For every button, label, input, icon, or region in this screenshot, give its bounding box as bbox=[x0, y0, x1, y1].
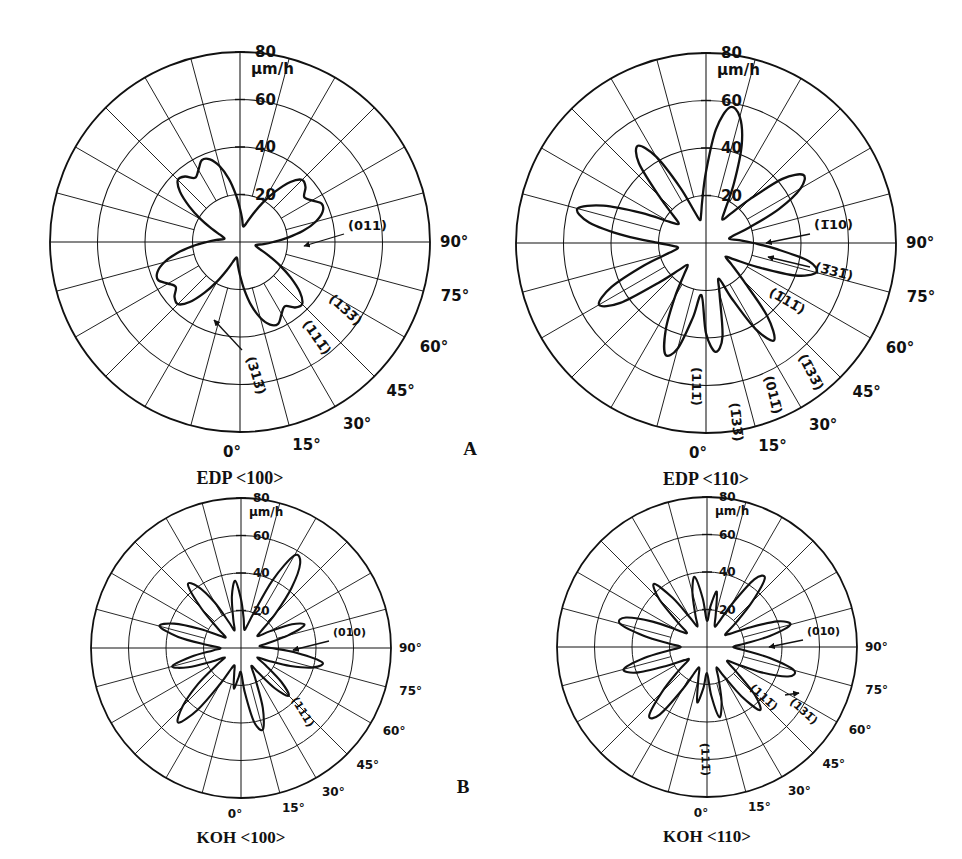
angle-label-45: 45° bbox=[356, 758, 379, 772]
angle-label-0: 0° bbox=[223, 443, 241, 461]
angle-label-90: 90° bbox=[440, 233, 468, 251]
grid-spoke-285 bbox=[522, 255, 660, 292]
plane-label-5: (111̅) bbox=[689, 367, 704, 406]
grid-spoke-255 bbox=[96, 609, 205, 638]
angle-label-45: 45° bbox=[822, 757, 845, 771]
polar-plot-edp-100: 20406080µm/h0°15°30°45°60°75°90°(011)(13… bbox=[50, 43, 469, 488]
plane-label-2: (131̅) bbox=[787, 696, 820, 728]
grid-spoke-15 bbox=[251, 684, 280, 793]
grid-spoke-165 bbox=[717, 502, 746, 611]
panel-caption-koh-100: KOH <100> bbox=[197, 828, 286, 847]
grid-spoke-285 bbox=[96, 658, 205, 687]
angle-label-30: 30° bbox=[343, 415, 371, 433]
plane-label-1: (3̅31̅) bbox=[813, 259, 855, 283]
grid-spoke-345 bbox=[668, 683, 697, 792]
angle-label-90: 90° bbox=[399, 641, 422, 655]
plane-label-6: (1̅33̅) bbox=[727, 402, 746, 442]
plane-label-1: (133̅) bbox=[326, 291, 365, 328]
unit-label: µm/h bbox=[251, 60, 294, 78]
plane-label-3: (1̅33̅) bbox=[795, 351, 827, 393]
angle-label-60: 60° bbox=[886, 339, 914, 357]
radial-tick-label-80: 80 bbox=[255, 43, 276, 61]
angle-label-60: 60° bbox=[383, 724, 406, 738]
grid-spoke-165 bbox=[251, 503, 280, 612]
plane-label-leader-0 bbox=[293, 641, 329, 650]
angle-label-15: 15° bbox=[282, 801, 305, 815]
polar-plot-edp-110: 20406080µm/h0°15°30°45°60°75°90°(1̅10)(3… bbox=[516, 44, 935, 489]
angle-label-90: 90° bbox=[906, 234, 934, 252]
unit-label: µm/h bbox=[249, 505, 283, 519]
angle-label-60: 60° bbox=[849, 723, 872, 737]
angle-label-45: 45° bbox=[386, 382, 414, 400]
figure-canvas: 20406080µm/h0°15°30°45°60°75°90°(011)(13… bbox=[0, 0, 962, 859]
angle-label-0: 0° bbox=[228, 807, 242, 821]
panel-caption-koh-110: KOH <110> bbox=[663, 827, 751, 846]
angle-label-75: 75° bbox=[399, 684, 422, 698]
radial-tick-label-60: 60 bbox=[719, 528, 736, 542]
polar-plot-koh-100: 20406080µm/h0°15°30°45°60°75°90°(010)(11… bbox=[91, 491, 422, 847]
radial-tick-label-40: 40 bbox=[719, 565, 736, 579]
unit-label: µm/h bbox=[715, 504, 749, 518]
angle-label-30: 30° bbox=[809, 416, 837, 434]
angle-label-15: 15° bbox=[748, 800, 771, 814]
plane-label-0: (011) bbox=[348, 218, 387, 233]
group-letter-B: B bbox=[457, 776, 470, 797]
angle-label-60: 60° bbox=[420, 338, 448, 356]
plane-label-leader-0 bbox=[766, 234, 810, 243]
grid-spoke-75 bbox=[277, 658, 386, 687]
grid-spoke-165 bbox=[252, 58, 289, 196]
angle-label-0: 0° bbox=[694, 806, 708, 820]
angle-label-75: 75° bbox=[907, 288, 935, 306]
radial-tick-label-80: 80 bbox=[253, 491, 270, 505]
panel-caption-edp-110: EDP <110> bbox=[663, 469, 749, 489]
radial-tick-label-60: 60 bbox=[255, 91, 276, 109]
plane-label-2: (111̅) bbox=[300, 317, 335, 358]
plane-label-leader-0 bbox=[769, 640, 803, 647]
angle-label-30: 30° bbox=[788, 784, 811, 798]
radial-tick-label-40: 40 bbox=[255, 138, 276, 156]
angle-label-15: 15° bbox=[292, 436, 320, 454]
plane-label-leader-3 bbox=[214, 320, 242, 350]
group-letter-A: A bbox=[463, 438, 477, 459]
angle-label-0: 0° bbox=[689, 444, 707, 462]
plane-label-0: (010) bbox=[807, 625, 840, 638]
grid-spoke-345 bbox=[191, 288, 228, 426]
plane-label-3: (313̅) bbox=[243, 354, 269, 396]
grid-spoke-255 bbox=[56, 193, 194, 230]
angle-label-75: 75° bbox=[865, 683, 888, 697]
polar-plot-koh-110: 20406080µm/h0°15°30°45°60°75°90°(010)(11… bbox=[557, 490, 888, 846]
plane-label-0: (1̅10) bbox=[814, 217, 853, 232]
radial-tick-label-40: 40 bbox=[253, 566, 270, 580]
radial-tick-label-80: 80 bbox=[721, 44, 742, 62]
angle-label-45: 45° bbox=[852, 383, 880, 401]
radial-tick-label-60: 60 bbox=[253, 529, 270, 543]
grid-spoke-195 bbox=[657, 59, 694, 197]
angle-label-90: 90° bbox=[865, 640, 888, 654]
polar-etch-rate-figure: 20406080µm/h0°15°30°45°60°75°90°(011)(13… bbox=[0, 0, 962, 859]
plane-label-4: (011̅) bbox=[761, 374, 785, 416]
grid-spoke-195 bbox=[202, 503, 231, 612]
angle-label-75: 75° bbox=[441, 287, 469, 305]
radial-tick-label-40: 40 bbox=[721, 139, 742, 157]
unit-label: µm/h bbox=[717, 61, 760, 79]
plane-label-leader-0 bbox=[304, 234, 344, 246]
grid-spoke-285 bbox=[562, 657, 671, 686]
plane-label-1: (111) bbox=[288, 695, 317, 730]
radial-tick-label-80: 80 bbox=[719, 490, 736, 504]
plane-label-0: (010) bbox=[333, 626, 366, 639]
angle-label-30: 30° bbox=[322, 785, 345, 799]
grid-spoke-75 bbox=[286, 254, 424, 291]
plane-label-3: (111̅) bbox=[698, 743, 712, 776]
panel-caption-edp-100: EDP <100> bbox=[196, 468, 283, 488]
grid-spoke-345 bbox=[657, 289, 694, 427]
angle-label-15: 15° bbox=[758, 437, 786, 455]
